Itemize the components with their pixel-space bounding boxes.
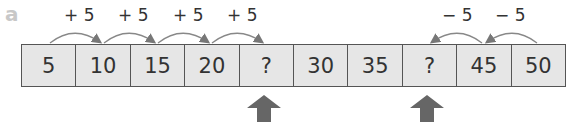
number-strip: 5 10 15 20 ? 30 35 ? 45 50 — [21, 44, 566, 87]
cell-7: 35 — [348, 45, 402, 86]
hop-arcs — [0, 0, 575, 50]
cell-1: 5 — [22, 45, 76, 86]
cell-2: 10 — [76, 45, 130, 86]
cell-3: 15 — [131, 45, 185, 86]
cell-5-unknown[interactable]: ? — [240, 45, 294, 86]
cell-9: 45 — [457, 45, 511, 86]
cell-8-unknown[interactable]: ? — [403, 45, 457, 86]
up-arrow-icon — [410, 95, 444, 122]
cell-4: 20 — [185, 45, 239, 86]
cell-6: 30 — [294, 45, 348, 86]
up-arrow-icon — [247, 95, 281, 122]
cell-10: 50 — [512, 45, 565, 86]
